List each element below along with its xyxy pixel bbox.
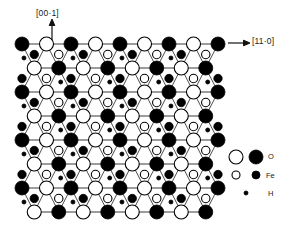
hydrogen-atom (206, 176, 210, 180)
oxygen-atom-filled (15, 181, 29, 195)
iron-atom-open (104, 146, 112, 154)
iron-atom-open (153, 50, 161, 58)
iron-atom-filled (67, 170, 75, 178)
iron-atom-filled (128, 50, 136, 58)
iron-atom-filled (128, 98, 136, 106)
legend-symbol-h-0 (244, 191, 248, 195)
oxygen-atom-filled (211, 85, 225, 99)
hydrogen-atom (108, 80, 112, 84)
iron-atom-open (202, 146, 210, 154)
axis-label-horizontal: [11·0] (252, 36, 274, 46)
oxygen-atom-filled (52, 157, 66, 171)
oxygen-atom-filled (162, 37, 176, 51)
hydrogen-atom (169, 152, 173, 156)
oxygen-atom-open (89, 133, 103, 147)
hydrogen-atom (120, 104, 124, 108)
iron-atom-filled (18, 74, 26, 82)
iron-atom-filled (30, 98, 38, 106)
iron-atom-open (140, 74, 148, 82)
hydrogen-atom (120, 56, 124, 60)
iron-atom-open (104, 98, 112, 106)
oxygen-atom-filled (15, 133, 29, 147)
iron-atom-filled (30, 50, 38, 58)
hydrogen-atom (120, 152, 124, 156)
oxygen-atom-open (125, 61, 139, 75)
iron-atom-open (91, 74, 99, 82)
oxygen-atom-open (125, 157, 139, 171)
hydrogen-atom (206, 80, 210, 84)
legend-label-iron: Fe (266, 171, 275, 180)
hydrogen-atom (157, 176, 161, 180)
oxygen-atom-filled (162, 85, 176, 99)
legend-symbol-fe-0 (232, 171, 240, 179)
oxygen-atom-filled (15, 85, 29, 99)
oxygen-atom-filled (199, 205, 213, 219)
hydrogen-atom (59, 176, 63, 180)
iron-atom-filled (79, 146, 87, 154)
oxygen-atom-open (40, 133, 54, 147)
oxygen-atom-open (187, 85, 201, 99)
oxygen-atom-filled (211, 37, 225, 51)
oxygen-atom-open (187, 37, 201, 51)
iron-atom-open (153, 98, 161, 106)
iron-atom-filled (165, 122, 173, 130)
hydrogen-atom (59, 80, 63, 84)
iron-atom-open (202, 50, 210, 58)
iron-atom-open (140, 122, 148, 130)
legend-symbol-fe-1 (252, 171, 260, 179)
iron-atom-filled (214, 74, 222, 82)
oxygen-atom-filled (113, 133, 127, 147)
oxygen-atom-filled (101, 61, 115, 75)
axis-label-vertical-text: [00·1] (36, 8, 59, 18)
oxygen-atom-filled (150, 109, 164, 123)
iron-atom-open (42, 122, 50, 130)
iron-atom-open (55, 50, 63, 58)
oxygen-atom-filled (52, 205, 66, 219)
oxygen-atom-filled (52, 109, 66, 123)
oxygen-atom-filled (150, 205, 164, 219)
iron-atom-filled (116, 170, 124, 178)
iron-atom-filled (30, 194, 38, 202)
oxygen-atom-filled (211, 181, 225, 195)
oxygen-atom-filled (150, 61, 164, 75)
hydrogen-atom (157, 128, 161, 132)
hydrogen-atom (120, 200, 124, 204)
oxygen-atom-filled (199, 157, 213, 171)
oxygen-atom-filled (211, 133, 225, 147)
legend-label-oxygen: O (268, 152, 274, 161)
iron-atom-open (189, 122, 197, 130)
iron-atom-filled (128, 146, 136, 154)
iron-atom-open (189, 170, 197, 178)
oxygen-atom-open (27, 205, 41, 219)
oxygen-atom-open (138, 181, 152, 195)
oxygen-atom-open (138, 85, 152, 99)
oxygen-atom-filled (64, 133, 78, 147)
oxygen-atom-open (174, 157, 188, 171)
hydrogen-atom (169, 104, 173, 108)
iron-atom-open (202, 98, 210, 106)
oxygen-atom-open (174, 109, 188, 123)
oxygen-atom-filled (162, 181, 176, 195)
oxygen-atom-open (89, 37, 103, 51)
oxygen-atom-open (76, 157, 90, 171)
hydrogen-atom (71, 152, 75, 156)
iron-atom-filled (214, 122, 222, 130)
axis-label-horizontal-text: [11·0] (252, 36, 274, 46)
oxygen-atom-open (27, 109, 41, 123)
oxygen-atom-open (187, 181, 201, 195)
oxygen-atom-open (138, 37, 152, 51)
iron-atom-open (153, 146, 161, 154)
iron-atom-filled (177, 98, 185, 106)
oxygen-atom-open (174, 205, 188, 219)
oxygen-atom-open (76, 205, 90, 219)
iron-atom-open (91, 122, 99, 130)
iron-atom-filled (30, 146, 38, 154)
oxygen-atom-open (89, 85, 103, 99)
oxygen-atom-open (138, 133, 152, 147)
iron-atom-filled (116, 122, 124, 130)
iron-atom-filled (214, 170, 222, 178)
oxygen-atom-open (76, 109, 90, 123)
oxygen-atom-filled (113, 85, 127, 99)
iron-atom-open (153, 194, 161, 202)
hydrogen-atom (22, 56, 26, 60)
